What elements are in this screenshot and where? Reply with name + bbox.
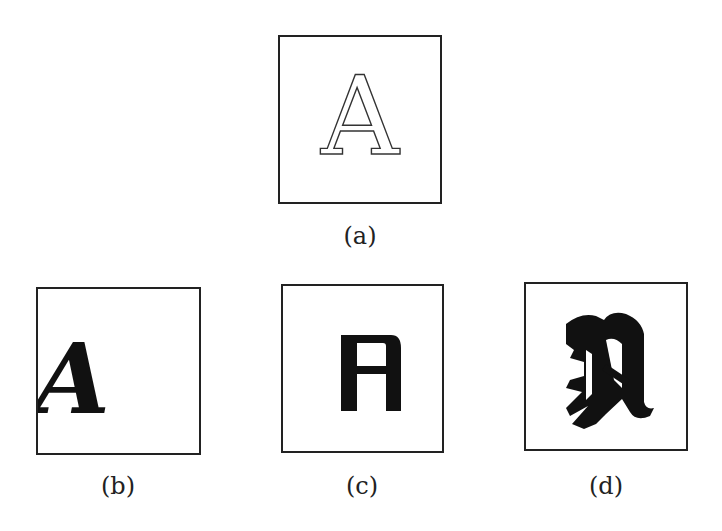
svg-text:A: A	[320, 54, 401, 179]
italic-letter-a-icon: A	[38, 289, 199, 453]
panel-c-box	[281, 284, 444, 453]
outline-letter-a-icon: A	[280, 37, 440, 202]
panel-d-box	[524, 282, 688, 451]
caption-a: (a)	[320, 222, 400, 250]
panel-a-box: A	[278, 35, 442, 204]
panel-b-box: A	[36, 287, 201, 455]
block-letter-a-icon	[283, 286, 442, 451]
caption-c: (c)	[322, 472, 402, 500]
caption-b: (b)	[78, 472, 158, 500]
caption-d: (d)	[566, 472, 646, 500]
svg-text:A: A	[38, 321, 110, 436]
blackletter-letter-a-icon	[526, 284, 686, 449]
